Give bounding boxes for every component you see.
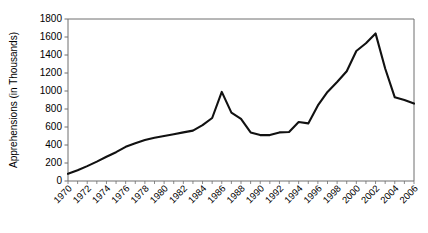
- x-tick-label: 1998: [320, 183, 343, 206]
- x-tick-label: 2006: [397, 183, 420, 206]
- x-tick-label: 1974: [90, 183, 113, 206]
- y-tick-label: 1000: [40, 85, 63, 96]
- x-tick-label: 1976: [109, 183, 132, 206]
- y-tick-label: 200: [45, 157, 62, 168]
- y-tick-label: 0: [56, 175, 62, 186]
- x-tick-label: 1990: [243, 183, 266, 206]
- y-tick-label: 400: [45, 139, 62, 150]
- y-tick-label: 600: [45, 121, 62, 132]
- axis-lines: [68, 19, 414, 181]
- y-tick-label: 1800: [40, 13, 63, 24]
- x-tick-label: 1994: [282, 183, 305, 206]
- x-tick-label: 1992: [263, 183, 286, 206]
- axis-frame: [68, 19, 414, 181]
- y-axis-title-label: Apprehensions (in Thousands): [8, 32, 19, 168]
- x-tick-label: 2004: [378, 183, 401, 206]
- x-tick-label: 2002: [359, 183, 382, 206]
- x-axis-ticks: 1970197219741976197819801982198419861988…: [51, 181, 420, 205]
- data-series-group: [68, 33, 414, 173]
- y-tick-label: 1400: [40, 49, 63, 60]
- y-tick-label: 1200: [40, 67, 63, 78]
- x-tick-label: 1996: [301, 183, 324, 206]
- apprehensions-line: [68, 33, 414, 173]
- x-tick-label: 1970: [51, 183, 74, 206]
- y-axis-ticks: 020040060080010001200140016001800: [40, 13, 68, 186]
- chart-canvas: Apprehensions (in Thousands) 02004006008…: [0, 0, 428, 233]
- y-tick-label: 800: [45, 103, 62, 114]
- x-tick-label: 1978: [128, 183, 151, 206]
- x-tick-label: 1980: [147, 183, 170, 206]
- y-axis-title: Apprehensions (in Thousands): [8, 32, 19, 168]
- x-tick-label: 1988: [224, 183, 247, 206]
- x-tick-label: 1982: [167, 183, 190, 206]
- y-tick-label: 1600: [40, 31, 63, 42]
- x-tick-label: 1986: [205, 183, 228, 206]
- line-chart: Apprehensions (in Thousands) 02004006008…: [0, 0, 428, 233]
- x-tick-label: 2000: [340, 183, 363, 206]
- x-tick-label: 1984: [186, 183, 209, 206]
- x-tick-label: 1972: [70, 183, 93, 206]
